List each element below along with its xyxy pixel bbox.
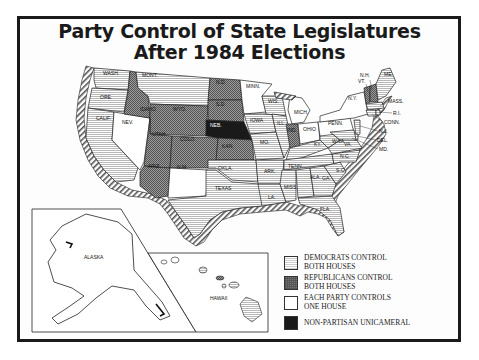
state-fla — [298, 196, 344, 236]
svg-text:COLO.: COLO. — [180, 136, 196, 142]
svg-text:OHIO: OHIO — [303, 126, 316, 132]
svg-text:MASS.: MASS. — [388, 98, 404, 104]
label-alaska: ALASKA — [84, 254, 104, 260]
svg-text:MINN.: MINN. — [246, 83, 260, 89]
svg-text:N.C.: N.C. — [340, 153, 350, 159]
svg-text:N.Y.: N.Y. — [348, 95, 357, 101]
legend-item-democrats: DEMOCRATS CONTROLBOTH HOUSES — [284, 254, 464, 273]
svg-text:ALA.: ALA. — [310, 174, 321, 180]
svg-text:ARIZ.: ARIZ. — [148, 163, 161, 169]
legend-label: ONE HOUSE — [304, 303, 391, 312]
svg-text:MONT.: MONT. — [142, 72, 158, 78]
svg-text:KY.: KY. — [314, 141, 321, 147]
svg-text:ORE.: ORE. — [100, 94, 112, 100]
svg-text:FLA.: FLA. — [320, 206, 331, 212]
svg-text:OKLA.: OKLA. — [218, 165, 233, 171]
legend-swatch-democrats — [284, 256, 298, 270]
svg-text:VT.: VT. — [358, 78, 365, 84]
svg-text:ARK.: ARK. — [264, 168, 276, 174]
state-ny — [320, 92, 368, 122]
svg-text:ILL.: ILL. — [277, 120, 285, 126]
legend-label: BOTH HOUSES — [304, 263, 387, 272]
svg-text:LA.: LA. — [268, 194, 276, 200]
svg-text:R.I.: R.I. — [393, 110, 401, 116]
svg-text:UTAH: UTAH — [152, 131, 166, 137]
legend-item-republicans: REPUBLICANS CONTROLBOTH HOUSES — [284, 274, 464, 293]
svg-text:MD.: MD. — [379, 146, 388, 152]
state-ri — [376, 110, 380, 115]
svg-text:IOWA: IOWA — [250, 117, 264, 123]
legend-label: BOTH HOUSES — [304, 283, 393, 292]
svg-text:PENN.: PENN. — [328, 120, 343, 126]
legend-item-split: EACH PARTY CONTROLSONE HOUSE — [284, 294, 464, 313]
svg-text:TEXAS: TEXAS — [215, 185, 232, 191]
svg-text:NEB.: NEB. — [210, 122, 222, 128]
svg-text:ME.: ME. — [384, 71, 393, 77]
legend: DEMOCRATS CONTROLBOTH HOUSES REPUBLICANS… — [284, 254, 464, 334]
legend-item-nonpartisan: NON-PARTISAN UNICAMERAL — [284, 314, 464, 333]
svg-text:GA.: GA. — [322, 175, 331, 181]
svg-text:WIS.: WIS. — [268, 98, 279, 104]
svg-text:VA.: VA. — [344, 141, 352, 147]
label-hawaii: HAWAII — [210, 295, 227, 301]
svg-text:MO.: MO. — [260, 139, 269, 145]
svg-text:WASH.: WASH. — [103, 70, 119, 76]
legend-swatch-republicans — [284, 276, 298, 290]
svg-text:KAN.: KAN. — [222, 143, 234, 149]
svg-text:IND.: IND. — [287, 127, 297, 133]
state-kan — [216, 138, 254, 160]
svg-text:S.D.: S.D. — [216, 101, 226, 107]
legend-swatch-split — [284, 296, 298, 310]
state-sd — [208, 100, 244, 122]
state-conn — [366, 110, 376, 116]
svg-text:TENN.: TENN. — [288, 163, 303, 169]
svg-text:IDAHO: IDAHO — [140, 106, 156, 112]
inset-alaska-hawaii — [32, 209, 268, 332]
svg-text:N.J.: N.J. — [379, 128, 388, 134]
svg-text:S.C.: S.C. — [336, 167, 346, 173]
svg-text:WYO.: WYO. — [173, 106, 186, 112]
svg-text:NEV.: NEV. — [122, 119, 133, 125]
legend-label: NON-PARTISAN UNICAMERAL — [304, 319, 410, 328]
svg-text:DEL.: DEL. — [377, 137, 388, 143]
state-nm — [168, 168, 208, 198]
svg-text:N.D.: N.D. — [216, 79, 226, 85]
state-ore — [88, 88, 128, 112]
svg-text:CONN.: CONN. — [384, 119, 400, 125]
svg-text:MISS.: MISS. — [284, 184, 298, 190]
svg-text:CALIF.: CALIF. — [96, 115, 111, 121]
svg-text:MICH.: MICH. — [294, 109, 308, 115]
legend-swatch-nonpartisan — [284, 316, 298, 330]
svg-text:N.M.: N.M. — [177, 164, 188, 170]
